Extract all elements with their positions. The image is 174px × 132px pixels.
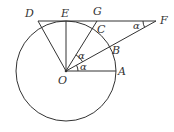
label-c: C xyxy=(97,23,106,36)
label-d: D xyxy=(24,7,34,20)
label-alpha-boc: α xyxy=(78,50,85,61)
label-b: B xyxy=(111,44,120,57)
label-e: E xyxy=(60,7,69,20)
geometry-diagram: D E G C F B O A α α α xyxy=(0,0,174,132)
label-f: F xyxy=(159,14,168,27)
angle-arc-aob xyxy=(77,65,79,71)
segment-od xyxy=(38,21,66,71)
label-alpha-f: α xyxy=(133,20,140,31)
label-o: O xyxy=(58,74,67,87)
label-alpha-aob: α xyxy=(80,61,87,72)
label-a: A xyxy=(117,65,126,78)
center-point-o xyxy=(65,70,68,73)
angle-arc-f xyxy=(143,21,145,27)
label-g: G xyxy=(93,5,102,18)
